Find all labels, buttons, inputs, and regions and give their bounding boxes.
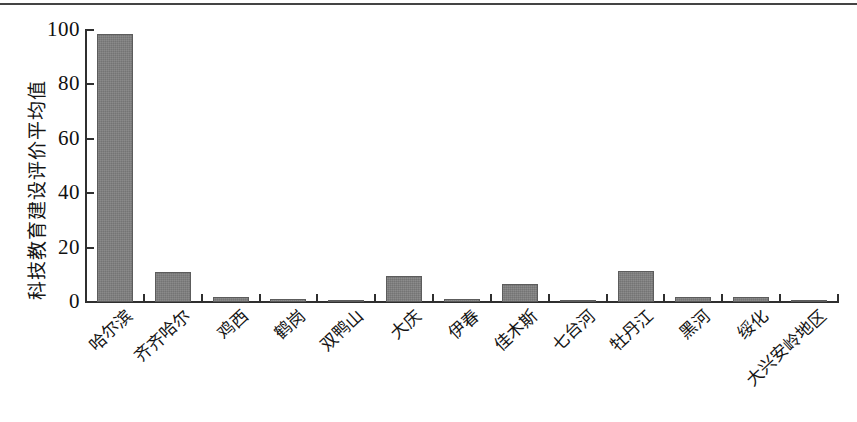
x-axis-label-text: 牡丹江 — [606, 306, 656, 354]
y-tick-label-text: 60 — [36, 128, 80, 149]
x-axis-label-text: 双鸭山 — [317, 306, 367, 354]
x-axis-label-text: 鸡西 — [214, 306, 251, 342]
bar — [502, 284, 538, 302]
page-top-rule — [0, 3, 857, 5]
y-tick-label-text: 0 — [36, 291, 80, 312]
x-axis-label-text: 佳木斯 — [491, 306, 541, 354]
x-axis-label-text: 哈尔滨 — [86, 306, 136, 354]
y-tick-label: 100 — [30, 19, 80, 40]
y-tick-label: 40 — [30, 182, 80, 203]
plot-area — [86, 30, 838, 302]
y-tick-label-text: 20 — [36, 237, 80, 258]
y-tick-label: 20 — [30, 237, 80, 258]
x-axis-label-text: 绥化 — [734, 306, 771, 342]
x-axis-label-text: 大庆 — [387, 306, 424, 342]
bar — [97, 34, 133, 302]
x-axis-label-text: 黑河 — [677, 306, 714, 342]
y-tick-label-text: 80 — [36, 73, 80, 94]
y-tick-label: 60 — [30, 128, 80, 149]
chart-figure: 科技教育建设评价平均值 020406080100 哈尔滨齐齐哈尔鸡西鹤岗双鸭山大… — [0, 0, 857, 422]
y-tick-label-text: 40 — [36, 182, 80, 203]
x-axis-label-text: 齐齐哈尔 — [131, 306, 193, 366]
y-tick-label: 80 — [30, 73, 80, 94]
y-tick-label: 0 — [30, 291, 80, 312]
x-axis-label-text: 七台河 — [548, 306, 598, 354]
x-axis-label-text: 伊春 — [445, 306, 482, 342]
y-tick-label-text: 100 — [36, 19, 80, 40]
x-axis-label-text: 鹤岗 — [272, 306, 309, 342]
